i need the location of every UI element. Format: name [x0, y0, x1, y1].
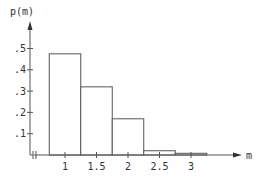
histogram-chart: .1.2.3.4.5 11.522.53 p(m) m	[0, 0, 258, 177]
y-tick-label: .2	[14, 107, 26, 118]
y-tick-label: .4	[14, 64, 26, 75]
x-tick-label: 2	[125, 161, 131, 172]
x-tick-label: 2.5	[150, 161, 168, 172]
y-axis-arrow-icon	[28, 21, 33, 30]
bar-3	[112, 119, 144, 155]
bar-2	[81, 87, 113, 155]
x-axis-arrow-icon	[233, 153, 242, 158]
bars-group	[49, 54, 207, 155]
bar-1	[49, 54, 81, 155]
y-tick-label: .1	[14, 128, 26, 139]
x-axis-label: m	[246, 150, 252, 161]
x-tick-label: 1.5	[87, 161, 105, 172]
y-axis-label: p(m)	[10, 6, 34, 17]
x-tick-label: 1	[62, 161, 68, 172]
y-tick-label: .5	[14, 43, 26, 54]
y-tick-label: .3	[14, 86, 26, 97]
x-tick-label: 3	[188, 161, 194, 172]
